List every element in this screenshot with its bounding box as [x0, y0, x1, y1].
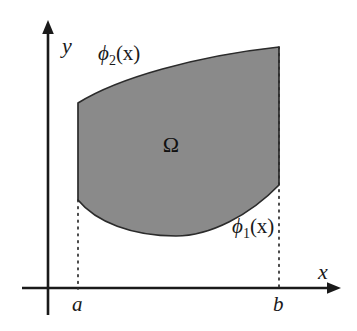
figure-root: y x a b ϕ2(x) ϕ1(x) Ω: [0, 0, 357, 331]
svg-text:ϕ1(x): ϕ1(x): [232, 214, 274, 241]
phi1-symbol: ϕ: [232, 214, 243, 238]
region-omega-label: Ω: [163, 132, 179, 157]
tick-label-b: b: [273, 292, 284, 316]
phi1-label: ϕ1(x): [232, 214, 274, 241]
y-axis-label: y: [60, 33, 72, 58]
phi1-argument: (x): [250, 214, 275, 238]
phi2-symbol: ϕ: [98, 41, 109, 65]
phi2-subscript: 2: [109, 53, 116, 68]
phi1-subscript: 1: [243, 226, 250, 241]
x-axis-label: x: [317, 259, 328, 284]
svg-text:ϕ2(x): ϕ2(x): [98, 41, 140, 68]
region-diagram: y x a b ϕ2(x) ϕ1(x) Ω: [0, 0, 357, 331]
tick-label-a: a: [72, 292, 83, 316]
phi2-argument: (x): [116, 41, 141, 65]
phi2-label: ϕ2(x): [98, 41, 140, 68]
